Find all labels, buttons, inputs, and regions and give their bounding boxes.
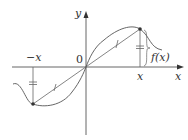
symmetry-line (33, 29, 140, 104)
pos-x-label: x (137, 70, 144, 83)
x-axis-label: x (175, 70, 182, 83)
neg-x-label: −x (26, 51, 42, 64)
point-negative (31, 102, 35, 106)
equal-tick-left (54, 84, 56, 91)
odd-function-diagram: y 0 x x −x f(x) (0, 0, 188, 140)
fx-label: f(x) (150, 51, 170, 64)
y-axis-label: y (74, 7, 82, 20)
point-positive (138, 27, 142, 31)
origin-label: 0 (76, 53, 83, 66)
equal-tick-right (116, 40, 118, 48)
y-axis-arrow-icon (84, 11, 89, 18)
fx-brace (144, 30, 150, 66)
x-axis-arrow-icon (177, 65, 184, 70)
